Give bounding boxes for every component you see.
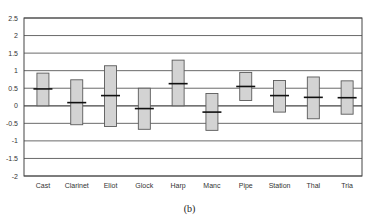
range-box-manc (202, 93, 221, 130)
y-tick-label: -2 (12, 173, 18, 180)
x-tick-label: Cast (36, 182, 50, 189)
y-tick-label: 1 (14, 67, 18, 74)
figure-caption: (b) (0, 203, 371, 214)
x-tick-label: Glock (135, 182, 153, 189)
y-tick-label: -1 (12, 137, 18, 144)
x-axis-tick-labels: CastClarinetEliotGlockHarpMancPipeStatio… (36, 182, 353, 190)
range-box-harp (169, 60, 188, 106)
y-tick-label: 2.5 (8, 15, 18, 22)
y-tick-label: 0 (14, 102, 18, 109)
y-tick-label: -0.5 (6, 120, 18, 127)
x-tick-label: Pipe (239, 182, 253, 190)
y-tick-label: 2 (14, 32, 18, 39)
x-tick-label: Manc (203, 182, 221, 189)
x-tick-label: Thal (307, 182, 321, 189)
x-tick-label: Clarinet (65, 182, 89, 189)
x-tick-label: Station (269, 182, 291, 189)
range-box-thal (304, 77, 323, 119)
y-tick-label: -1.5 (6, 155, 18, 162)
range-box-clarinet (67, 80, 86, 125)
range-box-cast (33, 73, 52, 106)
range-chart: 2.521.510.50-0.5-1-1.5-2 CastClarinetEli… (0, 0, 371, 220)
x-tick-label: Tria (341, 182, 353, 189)
range-box-station (270, 80, 289, 112)
y-tick-label: 1.5 (8, 50, 18, 57)
range-box-eliot (101, 66, 120, 127)
y-axis-tick-labels: 2.521.510.50-0.5-1-1.5-2 (6, 15, 18, 180)
range-box-pipe (236, 72, 255, 100)
x-tick-label: Harp (171, 182, 186, 190)
x-tick-label: Eliot (104, 182, 118, 189)
range-box-tria (338, 81, 357, 114)
y-tick-label: 0.5 (8, 85, 18, 92)
